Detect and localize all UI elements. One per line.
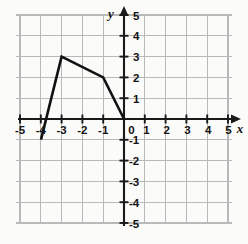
y-tick-label: 4	[133, 30, 140, 42]
x-tick-label: 5	[225, 124, 232, 136]
x-tick-label: -1	[98, 124, 109, 136]
y-tick-label: 5	[133, 10, 140, 22]
x-axis-label: x	[236, 121, 244, 136]
y-tick-label: -1	[129, 134, 140, 146]
x-tick-label: 1	[143, 124, 150, 136]
y-tick-label: -4	[129, 197, 140, 209]
y-tick-label: -5	[129, 218, 140, 230]
y-tick-label: -2	[129, 155, 139, 167]
x-tick-label: 4	[205, 124, 212, 136]
x-tick-label: -5	[15, 124, 26, 136]
x-tick-label: -3	[56, 124, 66, 136]
y-tick-label: 3	[133, 51, 139, 63]
y-axis-label: y	[106, 6, 114, 21]
coordinate-plane: -5 -4 -3 -2 -1 0 1 2 3 4 5 5 4 3 2 1 -1 …	[0, 0, 248, 244]
graph-figure: -5 -4 -3 -2 -1 0 1 2 3 4 5 5 4 3 2 1 -1 …	[0, 0, 248, 244]
y-tick-label: 1	[133, 93, 140, 105]
y-tick-label: 2	[133, 72, 139, 84]
y-tick-label: -3	[129, 176, 139, 188]
x-tick-label: -2	[77, 124, 87, 136]
x-tick-label: -4	[36, 124, 47, 136]
x-tick-label: 2	[163, 124, 169, 136]
x-tick-label: 3	[184, 124, 190, 136]
